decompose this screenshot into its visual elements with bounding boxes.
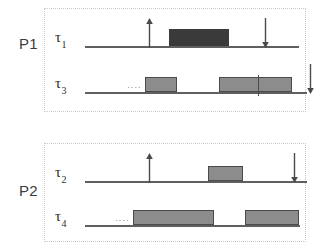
schedule-diagram: P1 τ1 τ3 ···· P2 τ2 [0,0,322,249]
exec-block-tau4-1 [133,210,214,225]
exec-block-tau2-1 [208,166,243,181]
task-label-tau-2-subscript: 2 [62,174,67,185]
task-label-tau-3-glyph: τ [55,75,61,91]
task-label-tau-2-glyph: τ [55,164,61,180]
task-label-tau-4-glyph: τ [55,208,61,224]
exec-block-tau3-1 [145,77,177,92]
task-label-tau-3: τ3 [55,75,66,94]
continuation-dots-tau4: ···· [115,216,129,225]
deadline-arrow-tau2 [289,153,300,183]
timeline-axis-tau-2 [85,181,307,183]
timeline-axis-tau-4 [85,225,300,227]
task-row-tau-1: τ1 [45,13,305,57]
exec-block-tau3-2-divider-1 [258,75,259,96]
processor-label-p2: P2 [19,182,38,199]
processor-panel-p1: τ1 τ3 ···· [44,8,306,112]
task-label-tau-1: τ1 [55,29,66,48]
task-label-tau-3-subscript: 3 [62,85,67,96]
task-label-tau-4-subscript: 4 [62,218,67,229]
deadline-arrow-tau1 [260,18,271,48]
exec-block-tau3-2 [219,77,292,92]
release-arrow-tau1 [144,18,155,48]
task-label-tau-4: τ4 [55,208,66,227]
task-row-tau-4: τ4 ···· [45,192,305,236]
processor-label-p1: P1 [19,35,38,52]
deadline-arrow-tau3 [305,64,316,94]
task-label-tau-2: τ2 [55,164,66,183]
exec-block-tau4-2 [245,210,299,225]
task-row-tau-2: τ2 [45,148,305,192]
processor-panel-p2: τ2 τ4 ···· [44,143,306,242]
timeline-axis-tau-3 [85,92,307,94]
task-label-tau-1-glyph: τ [55,29,61,45]
exec-block-tau1-1 [169,29,229,46]
release-arrow-tau2 [144,153,155,183]
continuation-dots-tau3: ···· [127,83,141,92]
task-row-tau-3: τ3 ···· [45,59,305,103]
task-label-tau-1-subscript: 1 [62,39,67,50]
